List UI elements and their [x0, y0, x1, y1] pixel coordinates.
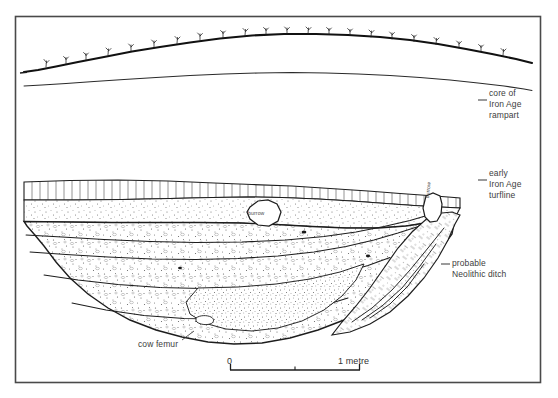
section-drawing-canvas — [0, 0, 558, 398]
scale-bar-start-label: 0 — [227, 356, 232, 367]
rampart-left-tick — [20, 72, 27, 73]
turf-tufts — [44, 27, 506, 67]
rampart-surface-line — [24, 34, 532, 72]
label-line: Neolithic ditch — [452, 269, 506, 280]
label-line: turfline — [489, 190, 521, 201]
label-core-of-iron-age-rampart: core of Iron Age rampart — [489, 88, 521, 121]
label-line: probable — [452, 258, 506, 269]
label-burrow-centre: burrow — [248, 210, 264, 216]
section-drawing-figure: core of Iron Age rampart early Iron Age … — [0, 0, 558, 398]
label-line: Iron Age — [489, 99, 521, 110]
label-line: core of — [489, 88, 521, 99]
label-cow-femur: cow femur — [138, 339, 178, 350]
cow-femur-feature — [196, 316, 214, 325]
label-line: early — [489, 168, 521, 179]
ditch-section — [24, 180, 460, 344]
scale-bar-end-label: 1 metre — [338, 356, 369, 367]
label-line: rampart — [489, 110, 521, 121]
label-probable-neolithic-ditch: probable Neolithic ditch — [452, 258, 506, 280]
rampart-core-base-line — [24, 73, 532, 91]
upper-rampart-profile — [20, 27, 532, 91]
label-line: Iron Age — [489, 179, 521, 190]
label-early-iron-age-turfline: early Iron Age turfline — [489, 168, 521, 201]
